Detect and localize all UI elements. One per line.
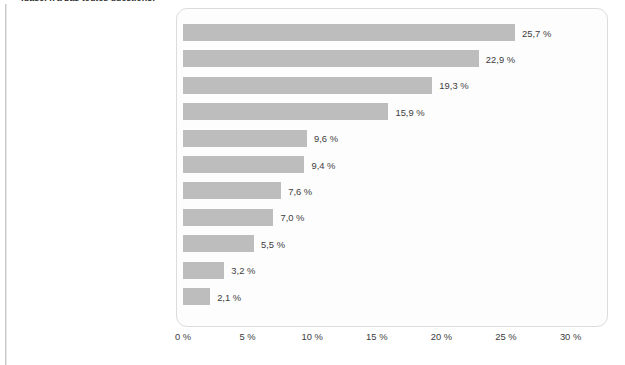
x-axis-tick-label: 15 % — [366, 331, 387, 342]
x-axis-tick-label: 20 % — [431, 331, 452, 342]
bar-rect[interactable] — [183, 50, 479, 67]
x-axis-tick-label: 0 % — [175, 331, 191, 342]
bar-value-label: 25,7 % — [522, 28, 551, 39]
bar-value-label: 15,9 % — [395, 107, 424, 118]
x-axis: 0 %5 %10 %15 %20 %25 %30 % — [0, 331, 625, 351]
bar-value-label: 7,0 % — [280, 212, 304, 223]
bar-value-label: 9,4 % — [311, 160, 335, 171]
x-axis-tick-label: 10 % — [302, 331, 323, 342]
bar-value-label: 19,3 % — [439, 80, 468, 91]
bar-rect[interactable] — [183, 262, 224, 279]
bar-rect[interactable] — [183, 130, 307, 147]
x-axis-tick-label: 30 % — [560, 331, 581, 342]
bar-value-label: 7,6 % — [288, 186, 312, 197]
bar-rect[interactable] — [183, 288, 210, 305]
bar-value-label: 5,5 % — [261, 239, 285, 250]
bar-rect[interactable] — [183, 24, 515, 41]
bar-rect[interactable] — [183, 209, 273, 226]
bar-rect[interactable] — [183, 103, 388, 120]
bar-rect[interactable] — [183, 156, 304, 173]
bar-value-label: 2,1 % — [217, 292, 241, 303]
x-axis-tick-label: 25 % — [495, 331, 516, 342]
bar-value-label: 9,6 % — [314, 133, 338, 144]
bar-chart-plot-area: Visité un wiki25,7 %Visité un site de ré… — [0, 0, 625, 365]
x-axis-tick-label: 5 % — [240, 331, 256, 342]
bar-rect[interactable] — [183, 77, 432, 94]
bar-rect[interactable] — [183, 182, 281, 199]
bar-value-label: 22,9 % — [486, 54, 515, 65]
bar-value-label: 3,2 % — [231, 265, 255, 276]
bar-rect[interactable] — [183, 235, 254, 252]
